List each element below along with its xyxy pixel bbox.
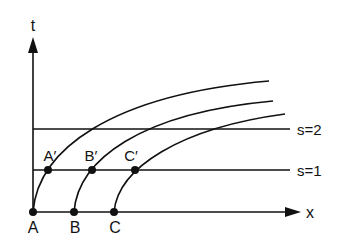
label-B: B — [70, 219, 81, 236]
level-label-s2: s=2 — [297, 121, 322, 138]
diagram-canvas: t x s=2 s=1 A B C A′ B′ C′ — [0, 0, 356, 244]
curve-from-B — [74, 101, 273, 212]
x-axis-label: x — [306, 204, 314, 221]
x-axis-arrow-icon — [285, 207, 301, 217]
label-B-prime: B′ — [85, 147, 98, 164]
level-label-s1: s=1 — [297, 162, 322, 179]
t-axis-label: t — [31, 17, 36, 34]
point-A — [29, 208, 37, 216]
t-axis-arrow-icon — [28, 37, 38, 53]
characteristics-diagram: t x s=2 s=1 A B C A′ B′ C′ — [0, 0, 356, 244]
label-C-prime: C′ — [124, 147, 138, 164]
point-A-prime — [44, 166, 52, 174]
point-C — [110, 208, 118, 216]
label-A-prime: A′ — [44, 147, 57, 164]
label-A: A — [28, 219, 39, 236]
point-B-prime — [88, 166, 96, 174]
point-C-prime — [131, 166, 139, 174]
point-B — [70, 208, 78, 216]
label-C: C — [109, 219, 121, 236]
curve-from-A — [33, 81, 269, 212]
